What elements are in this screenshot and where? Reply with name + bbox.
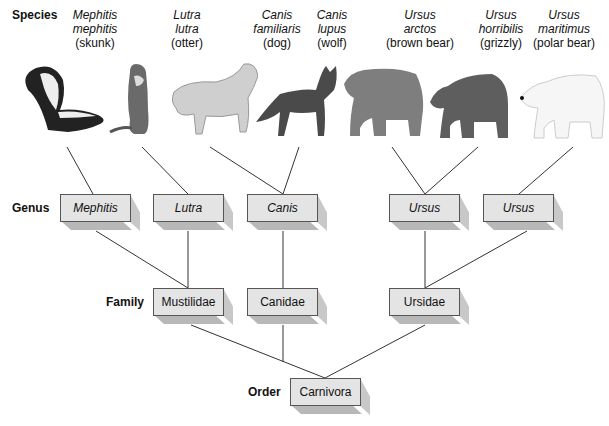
family-box-ursidae: Ursidae [389,288,460,316]
order-box-carnivora: Carnivora [290,378,361,406]
family-box-mustilidae: Mustilidae [153,288,224,316]
family-box-canidae: Canidae [247,288,318,316]
genus-box-lutra: Lutra [153,194,224,222]
genus-box-canis: Canis [247,194,318,222]
genus-box-ursus-2: Ursus [483,194,554,222]
genus-box-ursus-1: Ursus [389,194,460,222]
genus-box-mephitis: Mephitis [60,194,131,222]
